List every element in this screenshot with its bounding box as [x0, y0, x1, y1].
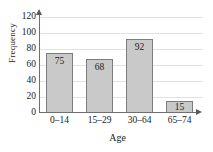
- y-tick-label: 20: [2, 92, 36, 102]
- x-tick-label: 30–64: [118, 115, 161, 126]
- y-tick-label: 80: [2, 44, 36, 54]
- bar-value-label: 68: [87, 62, 112, 72]
- y-tick-label: 120: [2, 12, 36, 22]
- bar: 68: [86, 59, 113, 113]
- bar: 75: [46, 53, 73, 113]
- y-axis-tick-labels: 120 100 80 60 40 20 0: [0, 0, 36, 152]
- x-tick-label: 65–74: [158, 115, 201, 126]
- bar-value-label: 92: [127, 42, 152, 52]
- x-axis-line: [40, 112, 197, 113]
- x-tick-label: 0–14: [38, 115, 81, 126]
- bars-layer: 75 68 92 15: [40, 17, 203, 113]
- y-tick-label: 0: [2, 108, 36, 118]
- bar: 92: [126, 39, 153, 113]
- x-axis-tick-labels: 0–14 15–29 30–64 65–74: [40, 115, 203, 129]
- bar-value-label: 15: [167, 102, 192, 112]
- x-axis-title: Age: [40, 132, 195, 143]
- x-tick-label: 15–29: [78, 115, 121, 126]
- y-tick-label: 60: [2, 60, 36, 70]
- y-tick-label: 100: [2, 28, 36, 38]
- bar-chart: Frequency 120 100 80 60 40 20 0 75 68 92…: [0, 0, 213, 152]
- y-axis-line: [39, 14, 40, 113]
- bar-value-label: 75: [47, 56, 72, 66]
- y-axis-arrow-icon: [36, 9, 42, 15]
- y-tick-label: 40: [2, 76, 36, 86]
